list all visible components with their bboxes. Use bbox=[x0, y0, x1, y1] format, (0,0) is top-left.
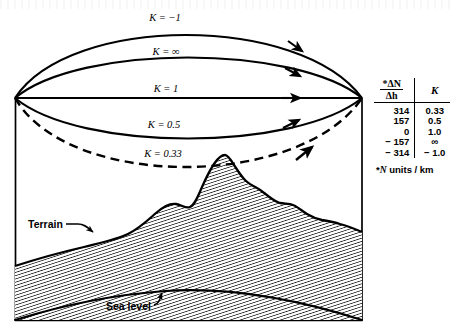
header-numerator: *ΔN bbox=[380, 78, 403, 90]
cell-k: 0.5 bbox=[415, 116, 450, 127]
header-denominator: Δh bbox=[380, 90, 403, 101]
ray-path-k-neg1 bbox=[15, 35, 362, 98]
ray-arrow-k-neg1 bbox=[288, 41, 302, 51]
cell-dn-dh: − 157 bbox=[374, 137, 415, 148]
table-row: 157 0.5 bbox=[374, 116, 450, 127]
cell-k: ∞ bbox=[415, 137, 450, 148]
ray-label-k-05: K = 0.5 bbox=[147, 119, 180, 130]
ray-label-k-neg1: K = −1 bbox=[148, 12, 181, 23]
header-k: K bbox=[415, 78, 450, 102]
ray-path-k-infinity bbox=[15, 58, 362, 99]
ray-arrow-k-033 bbox=[296, 147, 312, 160]
footnote-units: units / km bbox=[387, 164, 434, 175]
ray-path-k-033 bbox=[15, 98, 362, 167]
sea-level-label: Sea level bbox=[106, 300, 151, 312]
table-header-row: *ΔN Δh K bbox=[374, 78, 450, 102]
cell-dn-dh: − 314 bbox=[374, 148, 415, 159]
callout-terrain: Terrain bbox=[28, 218, 93, 232]
cell-k: − 1.0 bbox=[415, 148, 450, 159]
table-row: − 314 − 1.0 bbox=[374, 148, 450, 159]
terrain-label: Terrain bbox=[28, 218, 63, 230]
footnote-n-symbol: N bbox=[380, 165, 387, 175]
table-footnote: *N units / km bbox=[376, 164, 434, 175]
ray-label-k-1: K = 1 bbox=[153, 83, 179, 94]
ray-label-k-infinity: K = ∞ bbox=[152, 46, 180, 57]
table-row: − 157 ∞ bbox=[374, 137, 450, 148]
cell-dn-dh: 157 bbox=[374, 116, 415, 127]
refractivity-k-table: *ΔN Δh K 314 0.33 157 0.5 0 bbox=[374, 78, 450, 158]
terrain-cross-section bbox=[10, 145, 370, 330]
ray-label-k-033: K = 0.33 bbox=[143, 148, 182, 159]
header-dn-dh: *ΔN Δh bbox=[374, 78, 415, 102]
terrain-leader-line bbox=[66, 224, 93, 232]
ray-path-k-05 bbox=[15, 98, 362, 139]
